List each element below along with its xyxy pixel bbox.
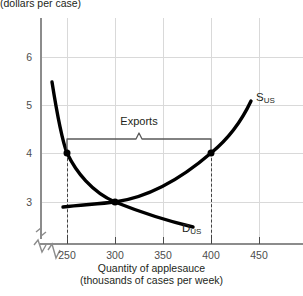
domestic-quantity-supplied-point [64, 150, 71, 157]
x-axis-title-line1: Quantity of applesauce [0, 262, 303, 274]
x-axis-title-line2: (thousands of cases per week) [0, 274, 303, 286]
demand-curve-label-subscript: US [190, 227, 201, 236]
supply-curve-label-subscript: US [264, 96, 275, 105]
exports-annotation-label: Exports [99, 115, 179, 127]
supply-curve-label-letter: S [256, 91, 264, 103]
domestic-quantity-demanded-point [208, 150, 215, 157]
supply-demand-chart: (dollars per case) 6 5 4 3 250 300 350 4… [0, 0, 303, 296]
exports-bracket [0, 0, 303, 296]
demand-curve-label: DUS [182, 222, 201, 234]
autarky-equilibrium-point [112, 199, 119, 206]
supply-curve-label: SUS [256, 91, 275, 103]
